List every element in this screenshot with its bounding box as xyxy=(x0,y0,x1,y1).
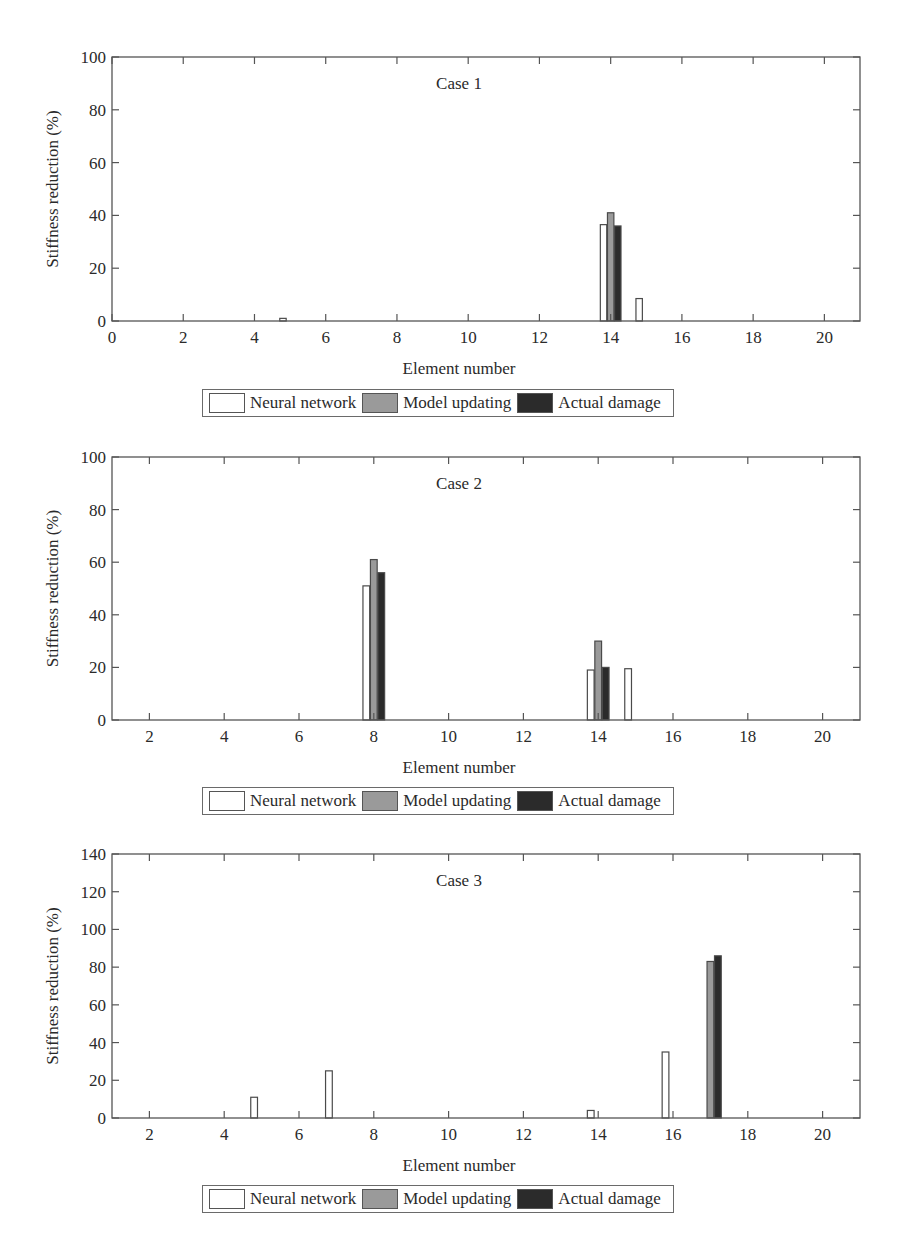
x-tick-label: 12 xyxy=(515,1125,532,1144)
x-tick-label: 16 xyxy=(665,1125,682,1144)
x-axis-label: Element number xyxy=(403,1156,516,1175)
chart-legend: Neural network Model updating Actual dam… xyxy=(202,1185,674,1213)
bar-series-group xyxy=(251,956,721,1118)
y-tick-label: 40 xyxy=(89,1034,106,1053)
bar-neural-network xyxy=(251,1097,258,1118)
y-tick-label: 100 xyxy=(81,920,107,939)
legend-label: Actual damage xyxy=(558,1189,660,1209)
legend-swatch-neural-network xyxy=(209,1189,245,1209)
x-tick-label: 4 xyxy=(220,1125,229,1144)
x-tick-label: 2 xyxy=(145,1125,154,1144)
x-tick-label: 6 xyxy=(295,1125,304,1144)
y-tick-label: 120 xyxy=(81,883,107,902)
legend-item-neural-network: Neural network xyxy=(209,1189,360,1209)
y-tick-label: 140 xyxy=(81,845,107,864)
legend-item-actual-damage: Actual damage xyxy=(517,1189,664,1209)
bar-neural-network xyxy=(587,1110,594,1118)
axes-frame xyxy=(112,854,860,1118)
bar-actual-damage xyxy=(715,956,722,1118)
y-tick-label: 80 xyxy=(89,958,106,977)
x-tick-label: 18 xyxy=(739,1125,756,1144)
y-tick-label: 0 xyxy=(98,1109,107,1128)
x-tick-label: 8 xyxy=(370,1125,379,1144)
chart-panel-case-3: 2468101214161820020406080100120140Case 3… xyxy=(0,0,903,1254)
bar-chart-case-3: 2468101214161820020406080100120140Case 3… xyxy=(0,0,903,1254)
x-tick-label: 14 xyxy=(590,1125,608,1144)
x-tick-label: 20 xyxy=(814,1125,831,1144)
legend-swatch-actual-damage xyxy=(517,1189,553,1209)
bar-neural-network xyxy=(326,1071,333,1118)
chart-title: Case 3 xyxy=(436,871,482,890)
y-tick-label: 60 xyxy=(89,996,106,1015)
legend-swatch-model-updating xyxy=(362,1189,398,1209)
legend-item-model-updating: Model updating xyxy=(362,1189,515,1209)
bar-model-updating xyxy=(707,961,714,1118)
bar-neural-network xyxy=(662,1052,669,1118)
y-tick-label: 20 xyxy=(89,1071,106,1090)
y-axis-label: Stiffness reduction (%) xyxy=(43,907,62,1064)
x-tick-label: 10 xyxy=(440,1125,457,1144)
legend-label: Neural network xyxy=(250,1189,356,1209)
legend-label: Model updating xyxy=(403,1189,511,1209)
